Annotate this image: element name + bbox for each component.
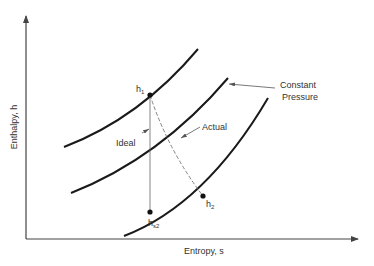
label-h2: h2: [206, 199, 215, 210]
label-h1: h1: [136, 84, 145, 95]
point-hs2: [147, 209, 152, 214]
constant-pressure-line-3: [124, 98, 268, 236]
ideal-pointer-arrow: [142, 129, 149, 133]
x-axis-label: Entropy, s: [184, 246, 224, 256]
constant-pressure-label: Constant Pressure: [280, 80, 319, 102]
point-h2: [200, 193, 205, 198]
ideal-label: Ideal: [116, 138, 136, 148]
actual-label: Actual: [202, 122, 227, 132]
constant-pressure-pointer-arrow: [229, 84, 275, 88]
actual-pointer-arrow: [181, 127, 200, 138]
hs-diagram: Enthalpy, h Entropy, s h1 hs2 h2 Ideal A…: [0, 0, 374, 266]
y-axis-label: Enthalpy, h: [9, 105, 19, 149]
constant-pressure-line-1: [64, 49, 198, 147]
point-h1: [147, 92, 152, 97]
